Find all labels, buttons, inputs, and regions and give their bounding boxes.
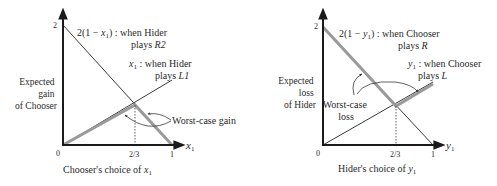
tick-1: 1 bbox=[170, 150, 174, 159]
tick-1: 1 bbox=[431, 150, 435, 159]
worst-case-gain-annotation: Worst-case gain bbox=[172, 115, 236, 126]
line-l-label-line2: plays L bbox=[418, 70, 448, 81]
tick-y-2: 2 bbox=[53, 21, 57, 30]
x-axis-variable: y1 bbox=[445, 139, 455, 153]
worst-case-loss-annotation: Worst-case loss bbox=[323, 99, 370, 122]
left-chart: 2 0 2/3 1 x1 Expected gain of Chooser Ch… bbox=[15, 10, 236, 177]
line-l1-label-line2: plays L1 bbox=[155, 70, 189, 81]
line-r-label-line2: plays R bbox=[398, 40, 428, 51]
x-axis-label: Hider's choice of y1 bbox=[338, 163, 417, 176]
annotation-curve-1 bbox=[353, 74, 362, 95]
annotation-curve-2 bbox=[357, 82, 418, 94]
right-chart: 2 0 2/3 1 y1 Expected loss of Hider Hide… bbox=[278, 10, 482, 176]
tick-origin: 0 bbox=[56, 149, 60, 158]
y-axis-label: Expected gain of Chooser bbox=[15, 77, 58, 111]
diagram-canvas: 2 0 2/3 1 x1 Expected gain of Chooser Ch… bbox=[0, 0, 497, 186]
tick-origin: 0 bbox=[316, 149, 320, 158]
tick-2-3: 2/3 bbox=[390, 150, 400, 159]
line-r2-label-line2: plays R2 bbox=[131, 39, 166, 50]
tick-y-2: 2 bbox=[314, 22, 318, 31]
x-axis-variable: x1 bbox=[185, 139, 195, 153]
x-axis-label: Chooser's choice of x1 bbox=[63, 164, 152, 177]
tick-2-3: 2/3 bbox=[129, 150, 139, 159]
worst-case-envelope bbox=[63, 105, 172, 145]
annotation-curve-1 bbox=[148, 114, 171, 120]
y-axis-label: Expected loss of Hider bbox=[278, 76, 317, 110]
